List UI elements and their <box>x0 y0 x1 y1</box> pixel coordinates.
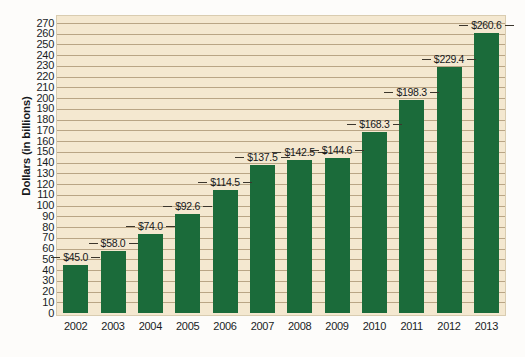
bar <box>325 158 350 313</box>
bar <box>175 214 200 313</box>
bar <box>63 265 88 313</box>
y-axis-tick-label: 100 <box>37 200 54 211</box>
x-axis-tick-labels: 2002200320042005200620072008200920102011… <box>57 320 505 340</box>
y-axis-tick-labels: 0102030405060708090100110120130140150160… <box>20 0 54 357</box>
gridline <box>57 44 505 45</box>
bar <box>399 100 424 313</box>
x-axis-tick-label: 2010 <box>363 320 386 332</box>
gridline <box>57 23 505 24</box>
bar <box>250 165 275 313</box>
x-axis-tick-label: 2008 <box>288 320 311 332</box>
y-axis-tick-label: 20 <box>42 286 54 297</box>
y-axis-tick-label: 230 <box>37 60 54 71</box>
y-axis-tick-label: 80 <box>42 222 54 233</box>
x-axis-tick-label: 2013 <box>475 320 498 332</box>
y-axis-tick-label: 0 <box>48 308 54 319</box>
bar <box>138 234 163 313</box>
bar <box>287 160 312 313</box>
y-axis-tick-label: 70 <box>42 232 54 243</box>
x-axis-tick-label: 2005 <box>176 320 199 332</box>
y-axis-tick-label: 150 <box>37 146 54 157</box>
gridline <box>57 55 505 56</box>
bar <box>213 190 238 313</box>
y-axis-tick-label: 160 <box>37 136 54 147</box>
y-axis-tick-label: 130 <box>37 168 54 179</box>
y-axis-tick-label: 140 <box>37 157 54 168</box>
y-axis-tick-label: 30 <box>42 275 54 286</box>
x-axis-tick-label: 2007 <box>251 320 274 332</box>
y-axis-tick-label: 240 <box>37 50 54 61</box>
y-axis-tick-label: 270 <box>37 18 54 29</box>
bar <box>437 67 462 313</box>
y-axis-tick-label: 200 <box>37 93 54 104</box>
value-label-leader <box>505 25 514 26</box>
x-axis-tick-label: 2002 <box>64 320 87 332</box>
x-axis-tick-label: 2009 <box>325 320 348 332</box>
y-axis-tick-label: 60 <box>42 243 54 254</box>
y-axis-tick-label: 260 <box>37 28 54 39</box>
x-axis-tick-label: 2006 <box>213 320 236 332</box>
x-axis-tick-label: 2003 <box>101 320 124 332</box>
bar <box>101 251 126 313</box>
y-axis-tick-label: 120 <box>37 179 54 190</box>
y-axis-tick-label: 210 <box>37 82 54 93</box>
y-axis-tick-label: 220 <box>37 71 54 82</box>
y-axis-tick-label: 50 <box>42 254 54 265</box>
y-axis-tick-label: 190 <box>37 103 54 114</box>
y-axis-tick-label: 250 <box>37 39 54 50</box>
x-axis-tick-label: 2004 <box>139 320 162 332</box>
bar <box>362 132 387 313</box>
y-axis-tick-label: 40 <box>42 265 54 276</box>
bar <box>474 33 499 313</box>
y-axis-tick-label: 110 <box>37 189 54 200</box>
x-axis-tick-label: 2011 <box>400 320 422 332</box>
gridline <box>57 34 505 35</box>
y-axis-tick-label: 170 <box>37 125 54 136</box>
y-axis-tick-label: 90 <box>42 211 54 222</box>
y-axis-tick-label: 180 <box>37 114 54 125</box>
bar-chart-figure: Dollars (in billions) 010203040506070809… <box>0 0 525 357</box>
y-axis-tick-label: 10 <box>42 297 54 308</box>
plot-area <box>57 16 505 315</box>
x-axis-tick-label: 2012 <box>437 320 460 332</box>
